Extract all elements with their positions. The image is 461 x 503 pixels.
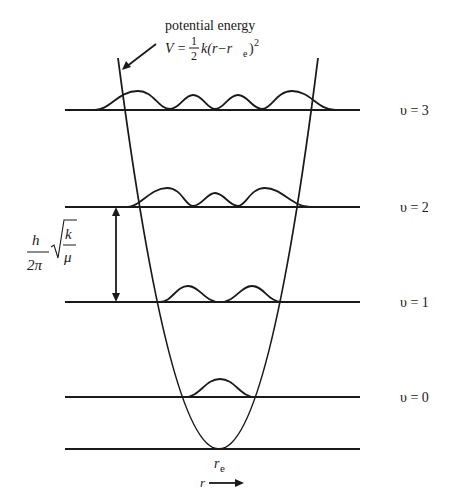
arrowhead-annotation xyxy=(122,61,131,70)
spacing-sqrt-num: k xyxy=(65,226,72,242)
spacing-num: h xyxy=(32,232,40,248)
arrowhead-r xyxy=(235,479,244,487)
vibrational-levels-diagram: potential energy V = 1 2 k(r−r e ) 2 υ =… xyxy=(0,0,461,503)
spacing-sqrt-den: μ xyxy=(63,249,72,265)
formula-sub: e xyxy=(243,48,248,59)
formula-lhs: V = xyxy=(165,41,186,56)
spacing-den: 2π xyxy=(27,257,43,273)
annotation-arrow xyxy=(126,44,156,67)
potential-curve xyxy=(118,58,318,449)
wavefunction-1 xyxy=(160,286,282,302)
arrowhead-down xyxy=(112,293,120,302)
arrowhead-up xyxy=(112,207,120,216)
wavefunction-2 xyxy=(128,188,310,207)
formula-frac-den: 2 xyxy=(191,49,197,63)
potential-energy-label: potential energy xyxy=(165,18,255,33)
level-label-2: υ = 2 xyxy=(400,200,429,215)
wavefunction-0 xyxy=(185,379,255,397)
formula-exp: 2 xyxy=(254,37,259,48)
r-axis-label: r xyxy=(200,475,206,490)
level-label-0: υ = 0 xyxy=(400,390,429,405)
level-label-1: υ = 1 xyxy=(400,295,429,310)
formula-frac-num: 1 xyxy=(191,34,197,48)
level-label-3: υ = 3 xyxy=(400,103,429,118)
formula-rhs: k(r−r xyxy=(201,41,233,57)
wavefunction-3 xyxy=(95,91,335,110)
re-sub: e xyxy=(220,462,225,474)
